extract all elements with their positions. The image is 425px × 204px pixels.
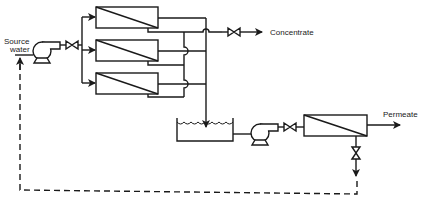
permeate-label: Permeate	[383, 110, 418, 119]
collector-a	[184, 32, 188, 97]
second-membrane-module	[304, 115, 367, 136]
membrane-module-2	[96, 40, 158, 61]
drain-valve-icon	[352, 147, 360, 159]
tank-icon	[177, 118, 233, 141]
second-valve-icon	[284, 123, 296, 131]
concentrate-valve-icon	[228, 28, 240, 36]
feed-valve-icon	[66, 41, 78, 49]
concentrate-label: Concentrate	[270, 28, 314, 37]
membrane-module-3	[96, 73, 158, 94]
process-flow-diagram: Source water	[0, 0, 425, 204]
source-water-label-2: water	[9, 45, 30, 54]
membrane-module-1	[96, 7, 158, 28]
feed-pump-icon	[33, 42, 60, 63]
concentrate-line	[184, 29, 222, 32]
second-pump-icon	[251, 124, 278, 145]
